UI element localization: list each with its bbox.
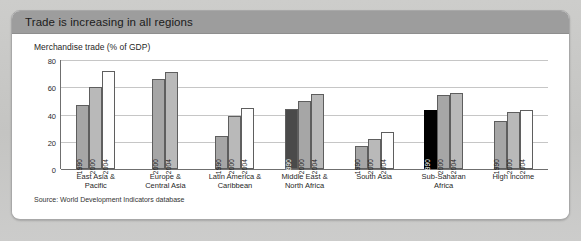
y-axis-tick-label: 80 — [48, 57, 56, 66]
x-axis-group-label-line: East Asia & — [61, 172, 131, 181]
x-axis-group-label: Latin America &Caribbean — [200, 172, 270, 190]
bar: 1990 — [215, 136, 228, 169]
bar: 2004 — [520, 110, 533, 169]
chart-card: Trade is increasing in all regions Merch… — [11, 10, 570, 220]
bar-group: 199020002004Latin America &Caribbean — [200, 60, 270, 169]
x-axis-group-label: High income — [478, 172, 548, 181]
plot-canvas: 020406080 199020002004East Asia &Pacific… — [60, 60, 548, 169]
x-axis-group-label-line: Central Asia — [131, 181, 201, 190]
bar: 2000 — [437, 95, 450, 169]
bar: 2004 — [381, 132, 394, 169]
page-background: Trade is increasing in all regions Merch… — [0, 0, 581, 241]
y-axis-tick-label: 60 — [48, 84, 56, 93]
bar: 2004 — [241, 108, 254, 169]
x-axis-group-label: Europe &Central Asia — [131, 172, 201, 190]
bar: 2000 — [89, 87, 102, 169]
x-axis-group-label-line: South Asia — [339, 172, 409, 181]
bar: 2000 — [152, 79, 165, 169]
bar-group: 199020002004Middle East &North Africa — [270, 60, 340, 169]
card-header: Trade is increasing in all regions — [12, 11, 569, 34]
bar: 1990 — [285, 109, 298, 169]
card-header-title: Trade is increasing in all regions — [25, 16, 193, 28]
x-axis-group-label-line: Caribbean — [200, 181, 270, 190]
x-axis-group-label-line: Europe & — [131, 172, 201, 181]
bar: 2004 — [102, 71, 115, 169]
x-axis-group-label: East Asia &Pacific — [61, 172, 131, 190]
bar: 1990 — [424, 110, 437, 169]
bar: 2000 — [228, 116, 241, 169]
x-axis-group-label: Middle East &North Africa — [270, 172, 340, 190]
x-axis-group-label-line: Middle East & — [270, 172, 340, 181]
bar: 2004 — [450, 93, 463, 169]
x-axis-group-label: Sub-SaharanAfrica — [409, 172, 479, 190]
bar: 2000 — [298, 101, 311, 169]
x-axis-group-label-line: Africa — [409, 181, 479, 190]
x-axis-group-label-line: Sub-Saharan — [409, 172, 479, 181]
card-body: Merchandise trade (% of GDP) 020406080 1… — [12, 34, 569, 218]
y-axis-tick-label: 40 — [48, 111, 56, 120]
x-axis-group-label-line: Pacific — [61, 181, 131, 190]
bar-group: 20002004Europe &Central Asia — [131, 60, 201, 169]
y-axis-tick-label: 20 — [48, 138, 56, 147]
source-note: Source: World Development Indicators dat… — [34, 196, 184, 203]
bar-groups: 199020002004East Asia &Pacific20002004Eu… — [61, 60, 548, 169]
x-axis-group-label-line: North Africa — [270, 181, 340, 190]
bar: 2004 — [165, 72, 178, 169]
y-axis-tick-label: 0 — [52, 166, 56, 175]
x-axis-group-label: South Asia — [339, 172, 409, 181]
x-axis-group-label-line: High income — [478, 172, 548, 181]
bar: 1990 — [76, 105, 89, 169]
bar-group: 199020002004High income — [478, 60, 548, 169]
bar-group: 199020002004East Asia &Pacific — [61, 60, 131, 169]
x-axis-group-label-line: Latin America & — [200, 172, 270, 181]
bar: 2004 — [311, 94, 324, 169]
plot-area: 020406080 199020002004East Asia &Pacific… — [12, 34, 569, 218]
bar-group: 199020002004South Asia — [339, 60, 409, 169]
bar-group: 199020002004Sub-SaharanAfrica — [409, 60, 479, 169]
